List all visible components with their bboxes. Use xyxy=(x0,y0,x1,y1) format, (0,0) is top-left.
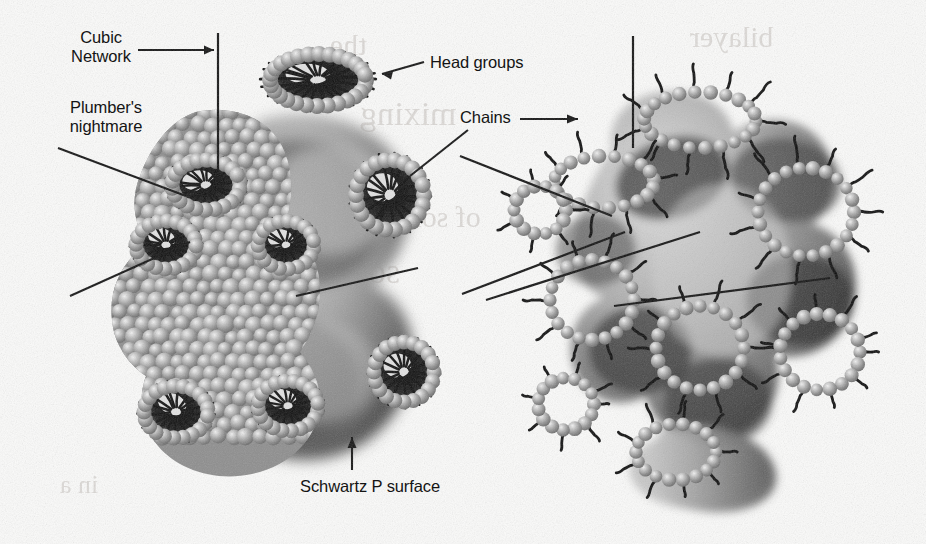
pore xyxy=(348,152,432,237)
pore xyxy=(251,374,326,439)
figure-graphics xyxy=(0,0,926,544)
leader-head-groups xyxy=(382,62,424,80)
leader-midgap-upper xyxy=(460,156,612,216)
label-plumbers-nightmare: Plumber's nightmare xyxy=(48,98,164,136)
left-panel-top-pore xyxy=(260,46,376,130)
pore xyxy=(164,152,247,218)
label-head-groups: Head groups xyxy=(430,53,523,72)
right-panel xyxy=(498,64,883,513)
label-cubic-network: Cubic Network xyxy=(58,28,144,66)
label-chains: Chains xyxy=(460,108,511,127)
label-schwartz-p-surface: Schwartz P surface xyxy=(300,477,440,496)
figure-canvas: the bilayer mixing of solid solid this i… xyxy=(0,0,926,544)
